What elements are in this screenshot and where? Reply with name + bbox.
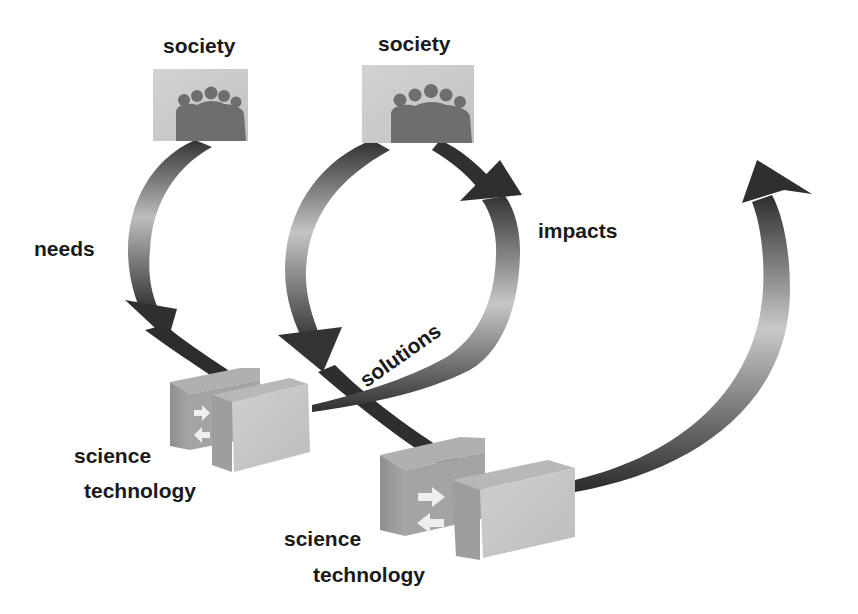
label-technology-1: technology: [84, 479, 196, 503]
sci-tech-node-2: [380, 437, 575, 560]
arrow-needs: [125, 140, 228, 380]
label-science-1: science: [74, 444, 151, 468]
arrow-onward: [575, 160, 812, 492]
label-science-2: science: [284, 527, 361, 551]
label-society-2: society: [378, 32, 450, 56]
society-node-2: [362, 65, 474, 143]
sci-tech-node-1: [170, 368, 310, 472]
diagram-canvas: [0, 0, 858, 614]
label-needs: needs: [34, 237, 95, 261]
label-society-1: society: [163, 34, 235, 58]
label-impacts: impacts: [538, 219, 617, 243]
label-technology-2: technology: [313, 563, 425, 587]
society-node-1: [153, 69, 248, 141]
